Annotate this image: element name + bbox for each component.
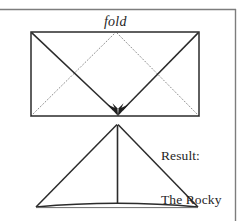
- mountain-left-edge: [36, 125, 117, 208]
- figure-container: fold Result: The Rocky Mountains: [0, 0, 245, 221]
- fold-direction-arrows: [108, 103, 129, 116]
- fold-line-from-top-right: [123, 33, 199, 110]
- fold-label: fold: [104, 14, 127, 30]
- paper-sheet-rectangle: [31, 32, 199, 116]
- result-caption-line-1: Result:: [161, 149, 222, 164]
- fold-line-from-top-left: [32, 33, 114, 110]
- result-caption-line-2: The Rocky: [161, 193, 222, 208]
- crease-from-bottom-left: [31, 33, 115, 116]
- result-caption: Result: The Rocky Mountains: [161, 120, 222, 221]
